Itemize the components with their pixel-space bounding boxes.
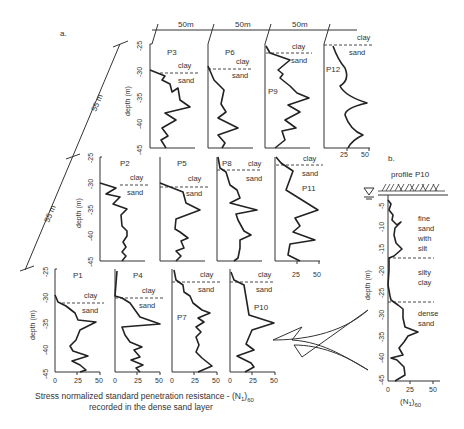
svg-text:with: with	[417, 234, 431, 243]
depth-axis-row2: -25 -30 -35 -40 -45 depth (m)	[75, 153, 94, 267]
svg-text:sand: sand	[349, 48, 365, 57]
svg-text:0: 0	[113, 377, 117, 384]
svg-text:(N1)60: (N1)60	[400, 397, 422, 408]
svg-text:P6: P6	[225, 48, 235, 57]
svg-text:25: 25	[340, 151, 348, 158]
svg-text:sand: sand	[82, 306, 98, 315]
spacing-label-3: 50m	[292, 20, 308, 29]
svg-text:clay: clay	[303, 154, 317, 163]
profile-title: profile P10	[391, 170, 430, 179]
svg-text:silty: silty	[418, 268, 431, 277]
svg-text:clay: clay	[142, 286, 156, 295]
svg-text:P11: P11	[302, 184, 316, 193]
svg-text:25: 25	[249, 377, 257, 384]
svg-text:50: 50	[155, 377, 163, 384]
svg-text:P4: P4	[133, 271, 143, 280]
svg-text:sand: sand	[178, 76, 194, 85]
svg-text:25: 25	[134, 377, 142, 384]
svg-text:sand: sand	[256, 285, 272, 294]
svg-text:sand: sand	[232, 71, 248, 80]
svg-text:P8: P8	[222, 159, 232, 168]
panel-p3: P3 clay sand	[150, 44, 198, 148]
svg-text:-20: -20	[378, 266, 385, 276]
svg-text:P10: P10	[254, 303, 269, 312]
svg-text:sand: sand	[139, 301, 155, 310]
x-axis-title: Stress normalized standard penetration r…	[35, 391, 255, 412]
svg-text:sand: sand	[186, 189, 202, 198]
water-table-icon	[364, 188, 374, 199]
svg-text:depth (m): depth (m)	[364, 270, 372, 300]
panel-b-label: b.	[388, 154, 395, 163]
svg-text:clay: clay	[200, 270, 214, 279]
svg-text:clay: clay	[258, 270, 272, 279]
svg-text:-45: -45	[136, 145, 143, 155]
svg-text:clay: clay	[418, 278, 432, 287]
y-axis-label: depth (m)	[124, 86, 132, 116]
panel-p6: P6 clay sand	[208, 44, 253, 148]
svg-text:P2: P2	[120, 159, 130, 168]
svg-text:0: 0	[170, 377, 174, 384]
arrow-icon	[273, 310, 368, 370]
svg-text:sand: sand	[418, 319, 434, 328]
svg-text:-25: -25	[378, 288, 385, 298]
spt-profile-diagram: a. 50m 50m 50m 55 m 55 m -25 -30 -35 -40…	[0, 0, 464, 429]
svg-text:recorded in the dense sand lay: recorded in the dense sand layer	[89, 402, 213, 412]
diagonal-spacing-indicator: 55 m 55 m	[20, 41, 128, 271]
svg-text:clay: clay	[236, 57, 250, 66]
svg-text:-45: -45	[42, 369, 49, 379]
svg-text:-10: -10	[378, 222, 385, 232]
svg-text:P7: P7	[177, 313, 187, 322]
panel-p7: clay sand P7 0 25 50	[170, 269, 220, 384]
svg-text:P3: P3	[167, 48, 177, 57]
panel-p1: P1 clay sand 0 25 50	[53, 269, 104, 384]
svg-text:sand: sand	[302, 169, 318, 178]
panel-p11: clay sand P11 25 50	[275, 154, 323, 278]
svg-text:dense: dense	[418, 309, 438, 318]
diagonal-label-2: 55 m	[43, 204, 58, 224]
svg-text:clay: clay	[292, 42, 306, 51]
svg-text:25: 25	[406, 386, 414, 393]
svg-text:-45: -45	[87, 257, 94, 267]
svg-text:clay: clay	[357, 33, 371, 42]
svg-text:clay: clay	[178, 61, 192, 70]
panel-p9: clay sand P9	[265, 42, 312, 148]
svg-text:sand: sand	[127, 188, 143, 197]
svg-text:50: 50	[270, 377, 278, 384]
svg-text:clay: clay	[84, 291, 98, 300]
svg-text:-15: -15	[378, 244, 385, 254]
svg-text:-30: -30	[87, 179, 94, 189]
panel-p8: P8 clay sand	[217, 157, 262, 261]
svg-text:0: 0	[228, 377, 232, 384]
svg-text:clay: clay	[130, 173, 144, 182]
panel-p5: P5 clay sand	[160, 157, 208, 261]
svg-text:silt: silt	[418, 244, 428, 253]
svg-text:-40: -40	[136, 119, 143, 129]
spacing-label-2: 50m	[235, 20, 251, 29]
svg-text:-40: -40	[87, 231, 94, 241]
svg-text:sand: sand	[291, 56, 307, 65]
depth-axis-row1: -25 -30 -35 -40 -45 depth (m)	[124, 41, 143, 155]
svg-text:depth (m): depth (m)	[29, 310, 37, 340]
svg-text:-40: -40	[42, 345, 49, 355]
svg-text:P5: P5	[177, 159, 187, 168]
diagonal-label-1: 55 m	[90, 93, 105, 113]
svg-text:-30: -30	[42, 293, 49, 303]
svg-text:clay: clay	[188, 174, 202, 183]
panel-p12: clay sand P12 25 50	[324, 33, 372, 158]
panel-p10: clay sand P10 0 25 50	[228, 269, 278, 384]
svg-text:25: 25	[191, 377, 199, 384]
svg-text:-35: -35	[378, 332, 385, 342]
svg-text:-30: -30	[378, 310, 385, 320]
horizontal-spacing-indicator: 50m 50m 50m	[152, 20, 357, 44]
svg-text:-30: -30	[136, 67, 143, 77]
svg-text:sand: sand	[418, 224, 434, 233]
panel-a-label: a.	[60, 29, 67, 38]
svg-text:-35: -35	[87, 205, 94, 215]
svg-text:sand: sand	[246, 174, 262, 183]
svg-text:P9: P9	[268, 87, 278, 96]
svg-text:25: 25	[292, 271, 300, 278]
svg-text:50: 50	[95, 377, 103, 384]
svg-text:P1: P1	[73, 271, 83, 280]
svg-text:clay: clay	[248, 159, 262, 168]
svg-text:-35: -35	[42, 319, 49, 329]
